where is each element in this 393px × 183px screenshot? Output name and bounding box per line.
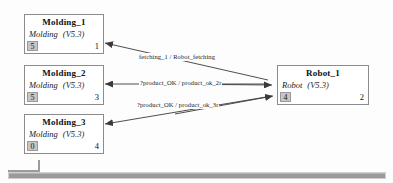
edge-label-fetching[interactable]: fetching_1 / Robot_fetching	[138, 53, 216, 61]
node-title: Molding_1	[25, 15, 103, 28]
node-index: 1	[95, 40, 99, 52]
node-type-name: Molding	[29, 80, 58, 90]
node-robot-1[interactable]: Robot_1 Robot(V5.3) 4 2	[277, 65, 369, 105]
node-type: Molding(V5.3)	[25, 128, 103, 140]
node-type-name: Molding	[29, 129, 58, 139]
node-footer: 4 2	[278, 91, 368, 103]
scrollbar-thumb[interactable]	[9, 173, 385, 178]
node-molding-3[interactable]: Molding_3 Molding(V5.3) 0 4	[24, 114, 104, 154]
node-version: (V5.3)	[58, 29, 84, 39]
node-footer: 5 3	[25, 91, 103, 103]
node-type: Molding(V5.3)	[25, 28, 103, 40]
node-footer: 0 4	[25, 140, 103, 152]
node-molding-1[interactable]: Molding_1 Molding(V5.3) 5 1	[24, 14, 104, 54]
node-version: (V5.3)	[302, 80, 328, 90]
edge-robot-to-molding1	[105, 43, 268, 80]
node-version: (V5.3)	[58, 80, 84, 90]
node-slot-value[interactable]: 5	[27, 92, 38, 102]
node-index: 4	[95, 140, 99, 152]
node-type: Molding(V5.3)	[25, 79, 103, 91]
canvas-corner-mark	[8, 160, 40, 172]
node-index: 2	[360, 91, 364, 103]
node-slot-value[interactable]: 0	[27, 141, 38, 151]
edge-label-product-ok-3r[interactable]: ?product_OK / product_ok_3r	[136, 101, 219, 109]
node-version: (V5.3)	[58, 129, 84, 139]
node-title: Robot_1	[278, 66, 368, 79]
node-title: Molding_3	[25, 115, 103, 128]
node-type: Robot(V5.3)	[278, 79, 368, 91]
node-slot-value[interactable]: 4	[280, 92, 291, 102]
edge-label-product-ok-2r[interactable]: ?product_OK / product_ok_2r	[139, 79, 222, 87]
node-footer: 5 1	[25, 40, 103, 52]
node-index: 3	[95, 91, 99, 103]
node-type-name: Robot	[282, 80, 302, 90]
diagram-canvas[interactable]: Molding_1 Molding(V5.3) 5 1 Molding_2 Mo…	[0, 0, 393, 183]
node-type-name: Molding	[29, 29, 58, 39]
node-molding-2[interactable]: Molding_2 Molding(V5.3) 5 3	[24, 65, 104, 105]
horizontal-scrollbar[interactable]	[8, 172, 386, 179]
node-slot-value[interactable]: 5	[27, 41, 38, 51]
node-title: Molding_2	[25, 66, 103, 79]
